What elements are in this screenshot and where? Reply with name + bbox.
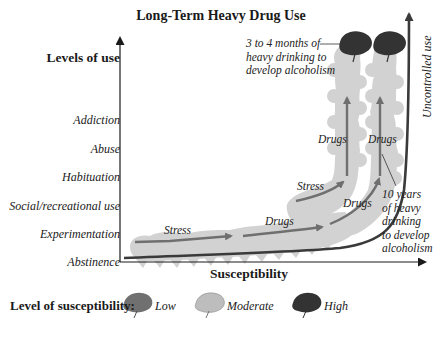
x-axis-label: Susceptibility	[210, 266, 288, 282]
legend-brain-moderate-icon	[195, 293, 224, 318]
note-line: drinking	[382, 215, 432, 229]
note-line: 10 years	[382, 188, 432, 202]
note-slow-alcoholism: 10 years of heavy drinking to develop al…	[382, 188, 432, 256]
label-drugs-1: Drugs	[265, 215, 294, 227]
note-line: heavy drinking to	[246, 51, 335, 65]
y-axis-label: Levels of use	[47, 50, 121, 66]
legend-high: High	[324, 299, 348, 314]
label-drugs-4: Drugs	[368, 133, 397, 145]
legend-moderate: Moderate	[227, 299, 274, 314]
level-habituation: Habituation	[62, 170, 120, 185]
note-line: alcoholism	[382, 242, 432, 256]
label-stress-1: Stress	[164, 224, 191, 236]
note-line: to develop	[382, 229, 432, 243]
legend-title: Level of susceptibility:	[10, 298, 135, 314]
label-stress-2: Stress	[297, 180, 324, 192]
note-fast-alcoholism: 3 to 4 months of heavy drinking to devel…	[246, 37, 335, 78]
level-experimentation: Experimentation	[40, 227, 120, 242]
note-line: develop alcoholism	[246, 64, 335, 78]
level-social-recreational: Social/recreational use	[9, 199, 120, 214]
level-abuse: Abuse	[91, 142, 120, 157]
label-drugs-3: Drugs	[318, 133, 347, 145]
note-line: of heavy	[382, 202, 432, 216]
label-drugs-2: Drugs	[343, 197, 372, 209]
diagram-title: Long-Term Heavy Drug Use	[0, 8, 442, 24]
level-abstinence: Abstinence	[67, 255, 120, 270]
label-uncontrolled-use: Uncontrolled use	[420, 35, 435, 118]
legend-brain-high-icon	[292, 293, 321, 318]
level-addiction: Addiction	[73, 113, 120, 128]
note-line: 3 to 4 months of	[246, 37, 335, 51]
legend-low: Low	[155, 299, 176, 314]
